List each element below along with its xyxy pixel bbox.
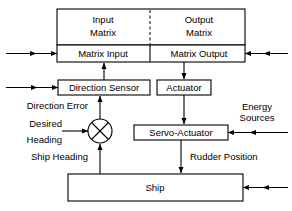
matrix-input-label: Matrix Input xyxy=(78,48,128,59)
matrix-upper-row-box xyxy=(57,9,245,45)
ship-heading-label: Ship Heading xyxy=(31,151,88,162)
actuator-block: Actuator xyxy=(157,80,211,95)
sources-label: Sources xyxy=(240,112,275,123)
summing-junction xyxy=(88,119,112,143)
diagram-svg: Input Matrix Output Matrix Matrix Input … xyxy=(0,0,292,211)
matrix-output-arrowhead-extra xyxy=(264,51,270,56)
output-matrix-label-line1: Output xyxy=(185,14,214,25)
matrix-output-external-wire xyxy=(245,51,288,56)
ship-external-wire xyxy=(243,185,288,190)
energy-sources-wire xyxy=(228,130,288,135)
block-diagram-canvas: Input Matrix Output Matrix Matrix Input … xyxy=(0,0,292,211)
input-matrix-label-line1: Input xyxy=(92,14,113,25)
direction-sensor-external-wire xyxy=(6,85,58,90)
ship-arrowhead-extra xyxy=(263,185,269,190)
direction-sensor-label: Direction Sensor xyxy=(69,82,139,93)
output-matrix-label-line2: Matrix xyxy=(186,27,212,38)
heading-label: Heading xyxy=(27,134,62,145)
ship-label: Ship xyxy=(145,182,164,193)
direction-sensor-arrowhead-extra xyxy=(31,85,37,90)
actuator-label: Actuator xyxy=(166,82,201,93)
direction-error-label: Direction Error xyxy=(27,100,88,111)
input-matrix-label-line2: Matrix xyxy=(90,27,116,38)
matrix-input-arrowhead-extra xyxy=(30,51,36,56)
matrix-input-external-wire xyxy=(6,51,57,56)
energy-sources-arrowhead-extra xyxy=(250,130,256,135)
matrix-output-label: Matrix Output xyxy=(170,48,227,59)
energy-label: Energy xyxy=(242,101,272,112)
desired-label: Desired xyxy=(29,118,62,129)
servo-actuator-label: Servo-Actuator xyxy=(149,127,212,138)
rudder-position-label: Rudder Position xyxy=(190,151,258,162)
matrix-composite-block: Input Matrix Output Matrix Matrix Input … xyxy=(57,9,245,62)
direction-sensor-block: Direction Sensor xyxy=(58,80,150,95)
ship-block: Ship xyxy=(68,174,243,201)
servo-actuator-block: Servo-Actuator xyxy=(134,125,228,140)
